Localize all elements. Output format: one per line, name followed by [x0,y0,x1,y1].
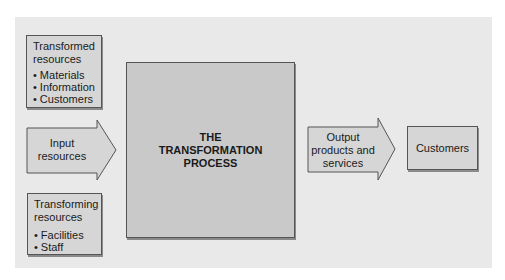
label-line: Input [27,137,97,150]
label-line: services [308,157,378,170]
title-line: resources [33,53,97,66]
transformation-process-box: THE TRANSFORMATION PROCESS [126,62,295,238]
title-line: Transforming [34,198,97,211]
label-line: PROCESS [127,157,294,170]
transformed-resources-list: Materials Information Customers [33,69,97,105]
output-products-label: Output products and services [308,131,378,170]
list-item: Customers [33,93,97,105]
label-line: resources [27,150,97,163]
list-item: Materials [33,69,97,81]
transforming-resources-list: Facilities Staff [34,229,97,253]
label-line: Output [308,131,378,144]
transformation-process-label: THE TRANSFORMATION PROCESS [127,131,294,170]
output-products-arrow: Output products and services [307,117,399,182]
title-line: Transformed [33,40,97,53]
customers-box: Customers [407,126,478,170]
input-resources-arrow: Input resources [26,119,118,181]
label-line: TRANSFORMATION [127,144,294,157]
list-item: Information [33,81,97,93]
customers-label: Customers [416,142,469,154]
list-item: Facilities [34,229,97,241]
label-line: THE [127,131,294,144]
transforming-resources-title: Transforming resources [34,198,97,224]
transforming-resources-box: Transforming resources Facilities Staff [27,193,102,255]
label-line: products and [308,144,378,157]
title-line: resources [34,211,97,224]
transformed-resources-title: Transformed resources [33,40,97,66]
transformed-resources-box: Transformed resources Materials Informat… [26,35,102,108]
input-resources-label: Input resources [27,137,97,163]
list-item: Staff [34,241,97,253]
